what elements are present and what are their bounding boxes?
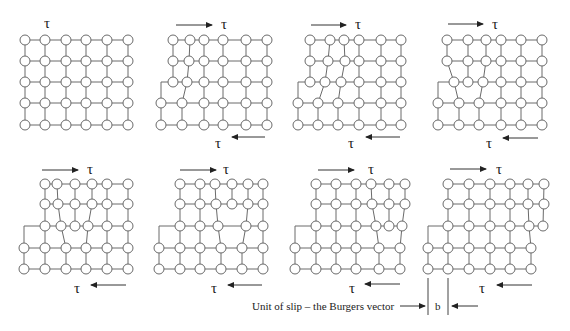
tau-label-top: τ — [44, 15, 50, 31]
tau-label-top: τ — [87, 161, 93, 177]
tau-label-bottom: τ — [215, 135, 221, 151]
tau-label-top: τ — [496, 161, 502, 177]
panel-2: τ τ — [156, 16, 272, 151]
tau-label-bottom: τ — [348, 135, 354, 151]
panel-4: τ τ — [433, 16, 547, 151]
tau-label-bottom: τ — [74, 280, 80, 296]
tau-label-top: τ — [368, 161, 374, 177]
panel-6: τ τ — [154, 161, 268, 296]
tau-label-bottom: τ — [486, 135, 492, 151]
tau-label-bottom: τ — [479, 280, 485, 296]
panel-8: τ τ — [423, 161, 549, 296]
panel-5: τ τ — [19, 161, 133, 296]
burgers-label-b: b — [435, 300, 441, 312]
tau-label-top: τ — [223, 161, 229, 177]
caption-unit-of-slip: Unit of slip – the Burgers vector — [252, 300, 394, 312]
tau-label-top: τ — [355, 16, 361, 32]
tau-label-top: τ — [492, 16, 498, 32]
panel-3: τ τ — [293, 16, 406, 151]
tau-label-top: τ — [221, 16, 227, 32]
panel-7: τ τ — [290, 161, 410, 296]
panel-1: τ — [20, 15, 133, 130]
tau-label-bottom: τ — [349, 280, 355, 296]
dislocation-diagram: τ τ — [0, 0, 570, 331]
tau-label-bottom: τ — [211, 280, 217, 296]
